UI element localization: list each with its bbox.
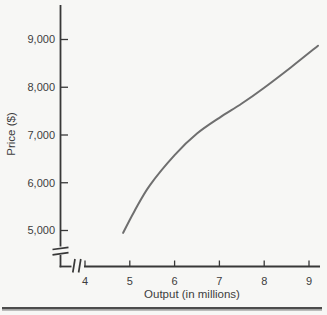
y-tick-label: 8,000 [27,81,55,93]
x-axis-break [73,259,81,273]
y-axis-break-mark [53,253,69,255]
price-output-curve [123,46,318,233]
y-tick-label: 5,000 [27,224,55,236]
x-tick-label: 5 [127,275,133,287]
x-tick-label: 8 [261,275,267,287]
x-tick-label: 4 [82,275,88,287]
x-axis-break-mark [73,259,75,273]
y-tick-labels: 5,0006,0007,0008,0009,000 [27,33,55,236]
y-axis-title: Price ($) [5,112,17,156]
chart-figure: 5,0006,0007,0008,0009,000 456789 Price (… [0,0,327,315]
x-axis-break-mark [79,259,81,273]
bottom-rule [2,308,322,310]
y-tick-marks [61,40,68,231]
x-tick-marks [85,261,309,267]
price-output-chart: 5,0006,0007,0008,0009,000 456789 Price (… [0,0,327,315]
y-axis-break [53,247,69,255]
y-tick-label: 7,000 [27,129,55,141]
x-tick-label: 9 [306,275,312,287]
y-tick-label: 9,000 [27,33,55,45]
x-axis-title: Output (in millions) [144,288,240,300]
x-tick-label: 7 [216,275,222,287]
y-tick-label: 6,000 [27,177,55,189]
y-axis-break-mark [53,247,69,249]
x-tick-label: 6 [172,275,178,287]
x-tick-labels: 456789 [82,275,312,287]
